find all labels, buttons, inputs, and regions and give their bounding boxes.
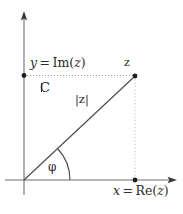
complex-field-glyph: C	[40, 81, 50, 94]
imaginary-axis-label-variable: y	[30, 55, 37, 70]
complex-field-label: C	[40, 81, 50, 94]
real-axis-label-variable: x	[113, 183, 120, 198]
complex-plane-figure: y=Im(z) x=Re(z) z |z| C φ	[0, 0, 183, 214]
argument-angle-label: φ	[48, 161, 56, 173]
real-axis-label-close-paren: )	[164, 183, 169, 198]
modulus-label: |z|	[75, 94, 89, 106]
imaginary-axis-label-close-paren: )	[81, 55, 86, 70]
real-axis-label: x=Re(z)	[113, 185, 169, 198]
imaginary-axis-label: y=Im(z)	[30, 57, 86, 70]
real-axis-label-argument: z	[157, 183, 164, 198]
imaginary-axis-label-argument: z	[74, 55, 81, 70]
imaginary-axis-label-function: Im	[53, 55, 70, 70]
imaginary-axis-label-equals: =	[37, 55, 52, 70]
point-real-marker	[133, 178, 138, 183]
real-axis-label-equals: =	[120, 183, 135, 198]
imaginary-axis	[21, 11, 27, 195]
point-z-label: z	[124, 57, 130, 68]
real-axis-label-function: Re	[136, 183, 153, 198]
point-z-marker	[133, 74, 138, 79]
argument-arc	[58, 149, 71, 181]
diagram-canvas	[0, 0, 183, 214]
point-imaginary-marker	[22, 73, 27, 78]
